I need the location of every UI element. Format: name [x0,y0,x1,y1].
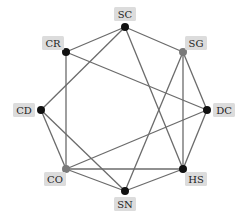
edge-cd-co [41,110,66,169]
node-label-sc: SC [114,7,136,21]
node-label-cd: CD [13,103,35,117]
node-label-co: CO [44,172,66,186]
node-label-sn: SN [114,197,136,211]
label-text: SC [118,9,133,20]
label-text: DC [216,105,232,116]
node-sn [121,187,129,195]
node-label-hs: HS [185,172,207,186]
edge-sc-cr [66,27,125,52]
node-hs [179,165,187,173]
network-graph: SCSGDCHSSNCOCDCR [0,0,243,219]
node-label-cr: CR [42,36,64,50]
label-text: CD [16,105,32,116]
node-co [62,165,70,173]
edge-co-sn [66,169,125,191]
node-label-sg: SG [185,36,207,50]
label-text: SN [117,199,133,210]
edge-sn-hs [125,169,183,191]
edge-dc-co [66,110,207,169]
label-text: HS [188,174,204,185]
node-sc [121,23,129,31]
node-cd [37,106,45,114]
label-text: CO [47,174,63,185]
node-dc [203,106,211,114]
edge-cr-dc [66,52,207,110]
labels-layer: SCSGDCHSSNCOCDCR [13,7,235,211]
node-label-dc: DC [213,103,235,117]
label-text: SG [189,38,204,49]
label-text: CR [45,38,61,49]
edge-sg-sn [125,52,183,191]
